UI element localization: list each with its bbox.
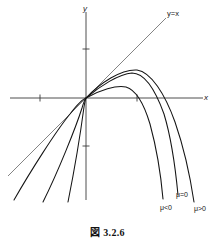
figure-container: x y y=x μ<0 μ=0 μ>0 図 3.2.6 xyxy=(0,0,215,245)
axes-group xyxy=(10,12,203,200)
curve-mu-negative xyxy=(14,87,163,200)
tick-marks-group xyxy=(40,49,137,146)
x-axis-label: x xyxy=(203,93,209,102)
curve-label-mu-zero: μ=0 xyxy=(176,191,188,199)
curve-label-mu-positive: μ>0 xyxy=(194,205,206,213)
curve-label-mu-negative: μ<0 xyxy=(160,204,172,212)
diagonal-line-label: y=x xyxy=(167,9,179,18)
figure-caption: 図 3.2.6 xyxy=(0,224,215,239)
y-axis-label: y xyxy=(82,4,88,13)
curves-group xyxy=(14,70,194,202)
phase-portrait-plot: x y y=x μ<0 μ=0 μ>0 xyxy=(0,0,215,215)
curve-mu-zero xyxy=(43,73,178,202)
